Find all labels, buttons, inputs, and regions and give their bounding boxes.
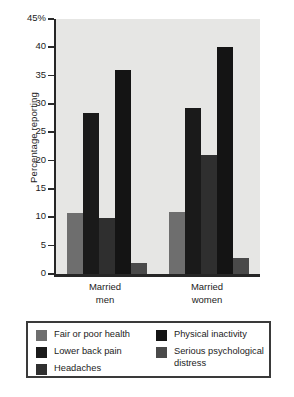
x-axis-category-label: Marriedwomen	[152, 281, 262, 306]
bar	[115, 70, 131, 274]
bar	[67, 213, 83, 274]
bar-chart-figure: Percentage reporting 051015202530354045%…	[0, 0, 294, 397]
x-axis-category-line: men	[50, 294, 160, 307]
y-axis-tick-label: 45%	[27, 12, 46, 23]
x-axis-baseline	[54, 274, 260, 277]
legend-entry: Serious psychological distress	[156, 346, 268, 369]
x-axis-category-line: Married	[152, 281, 262, 294]
y-axis-tick-label: 35	[35, 69, 46, 80]
legend-entry: Physical inactivity	[156, 329, 268, 344]
legend-swatch-icon	[36, 330, 47, 341]
x-axis-category-line: women	[152, 294, 262, 307]
y-axis-tick-label: 30	[35, 97, 46, 108]
bar	[169, 212, 185, 274]
legend-swatch-icon	[36, 364, 47, 375]
y-axis-tick-label: 40	[35, 40, 46, 51]
x-axis-category-line: Married	[50, 281, 160, 294]
x-axis-category-label: Marriedmen	[50, 281, 160, 306]
chart-legend: Fair or poor healthLower back painHeadac…	[26, 321, 271, 378]
legend-column-right: Physical inactivitySerious psychological…	[156, 329, 268, 371]
bar	[131, 263, 147, 274]
legend-label: Lower back pain	[54, 346, 122, 358]
legend-label: Fair or poor health	[54, 329, 130, 341]
y-axis-tick-label: 15	[35, 182, 46, 193]
y-axis-tick-label: 20	[35, 154, 46, 165]
legend-swatch-icon	[156, 347, 167, 358]
bar	[201, 155, 217, 274]
bar	[185, 108, 201, 274]
legend-entry: Fair or poor health	[36, 329, 156, 344]
plot-area	[54, 19, 260, 274]
y-axis-ticks: 051015202530354045%	[0, 19, 47, 274]
bar	[99, 218, 115, 274]
y-axis-tick-label: 25	[35, 125, 46, 136]
legend-label: Physical inactivity	[174, 329, 247, 341]
legend-entry: Lower back pain	[36, 346, 156, 361]
legend-swatch-icon	[36, 347, 47, 358]
y-axis-tick-label: 5	[41, 239, 46, 250]
legend-label: Headaches	[54, 363, 101, 375]
y-axis-tick-label: 10	[35, 210, 46, 221]
legend-column-left: Fair or poor healthLower back painHeadac…	[36, 329, 156, 380]
legend-swatch-icon	[156, 330, 167, 341]
legend-entry: Headaches	[36, 363, 156, 378]
bar	[233, 258, 249, 274]
bar	[83, 113, 99, 274]
y-axis-tick-label: 0	[41, 267, 46, 278]
legend-label: Serious psychological distress	[174, 346, 268, 369]
bar	[217, 47, 233, 274]
